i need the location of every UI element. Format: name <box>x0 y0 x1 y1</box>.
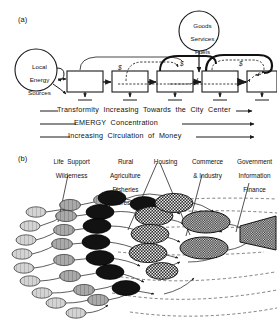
node-l2[interactable] <box>56 210 77 221</box>
node-l2[interactable] <box>60 270 81 281</box>
node-l3[interactable] <box>112 281 140 296</box>
node-l3[interactable] <box>83 219 111 234</box>
compartment-box-5[interactable] <box>247 71 277 92</box>
node-l5[interactable] <box>180 237 228 259</box>
node-l5[interactable] <box>182 211 230 233</box>
axis-arrow-group <box>40 111 254 137</box>
node-l1[interactable] <box>16 235 36 245</box>
node-l2[interactable] <box>54 224 75 235</box>
panel-a-group <box>15 11 277 137</box>
heat-sink-5 <box>255 92 269 100</box>
node-l1[interactable] <box>14 263 34 273</box>
goods-services-fuels-circle <box>179 11 219 51</box>
local-energy-sources-circle <box>15 49 57 91</box>
node-l2[interactable] <box>60 199 81 210</box>
link <box>164 278 194 294</box>
node-l2[interactable] <box>88 294 109 305</box>
node-l4[interactable] <box>146 263 178 280</box>
node-l3[interactable] <box>82 235 110 250</box>
node-l2[interactable] <box>74 284 95 295</box>
node-l1[interactable] <box>20 276 40 286</box>
node-l3[interactable] <box>86 251 114 266</box>
node-l2[interactable] <box>52 238 73 249</box>
goods-feedback-long <box>80 57 166 70</box>
heat-sink-4 <box>213 92 227 100</box>
panel-b-group <box>12 163 277 318</box>
node-l3[interactable] <box>86 205 114 220</box>
node-l1[interactable] <box>46 298 66 308</box>
node-l1[interactable] <box>20 221 40 231</box>
node-l4[interactable] <box>131 224 169 243</box>
node-l1[interactable] <box>32 288 52 298</box>
compartment-box-2[interactable] <box>112 71 148 92</box>
compartment-box-4[interactable] <box>202 71 238 92</box>
compartment-box-1[interactable] <box>67 71 103 92</box>
source-arrow-lower <box>53 84 66 94</box>
heat-sink-3 <box>168 92 182 100</box>
source-arrow-upper <box>57 68 64 80</box>
heat-sink-group <box>78 92 269 100</box>
city-center-sink-wedge[interactable] <box>240 216 276 250</box>
radial-arc-7 <box>130 308 277 316</box>
heat-sink-1 <box>78 92 92 100</box>
network-level-5 <box>180 211 230 259</box>
link <box>86 305 108 313</box>
node-l4[interactable] <box>155 193 193 212</box>
node-l3[interactable] <box>96 265 124 280</box>
node-l1[interactable] <box>26 207 46 217</box>
node-l1[interactable] <box>12 249 32 259</box>
figure-root: (a) Local Energy Sources Goods Services … <box>0 0 277 327</box>
compartment-box-3[interactable] <box>157 71 193 92</box>
node-l3[interactable] <box>98 191 126 206</box>
node-l2[interactable] <box>54 254 75 265</box>
figure-vector-layer <box>0 0 277 327</box>
node-l1[interactable] <box>66 308 86 318</box>
node-l4[interactable] <box>129 243 167 262</box>
heat-sink-2 <box>123 92 137 100</box>
